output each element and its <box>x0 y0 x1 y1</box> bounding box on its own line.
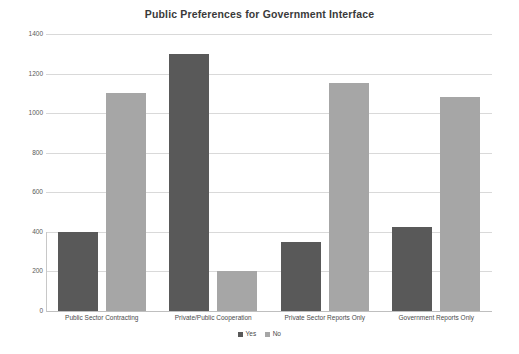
y-axis-tick-label: 1400 <box>3 31 43 38</box>
y-axis-tick-labels: 0200400600800100012001400 <box>0 34 43 311</box>
x-axis-tick-label: Private Sector Reports Only <box>269 314 381 322</box>
legend-label: No <box>273 331 281 338</box>
x-axis-tick-label: Government Reports Only <box>381 314 493 322</box>
bar-chart: Public Preferences for Government Interf… <box>0 0 519 354</box>
legend-item-no[interactable]: No <box>265 331 281 338</box>
y-axis-tick-label: 200 <box>3 268 43 275</box>
x-axis-tick-label: Public Sector Contracting <box>46 314 158 322</box>
legend-label: Yes <box>246 331 257 338</box>
bar-no-3 <box>440 97 480 311</box>
chart-title: Public Preferences for Government Interf… <box>0 8 519 20</box>
x-axis-tick-labels: Public Sector ContractingPrivate/Public … <box>46 314 492 328</box>
y-axis-tick-label: 600 <box>3 189 43 196</box>
y-axis-tick-label: 400 <box>3 229 43 236</box>
legend-swatch-icon <box>238 332 243 337</box>
bar-yes-3 <box>392 227 432 311</box>
legend-swatch-icon <box>265 332 270 337</box>
bar-no-0 <box>106 93 146 311</box>
y-axis-tick-label: 1200 <box>3 70 43 77</box>
bar-no-2 <box>329 83 369 311</box>
bar-no-1 <box>217 271 257 311</box>
chart-legend: YesNo <box>0 331 519 338</box>
gridline <box>46 311 492 312</box>
x-axis-tick-label: Private/Public Cooperation <box>158 314 270 322</box>
y-axis-tick-label: 800 <box>3 149 43 156</box>
bar-yes-1 <box>169 54 209 311</box>
bars-layer <box>46 34 492 311</box>
y-axis-tick-label: 0 <box>3 308 43 315</box>
y-axis-tick-label: 1000 <box>3 110 43 117</box>
bar-yes-2 <box>281 242 321 311</box>
bar-yes-0 <box>58 232 98 311</box>
legend-item-yes[interactable]: Yes <box>238 331 256 338</box>
